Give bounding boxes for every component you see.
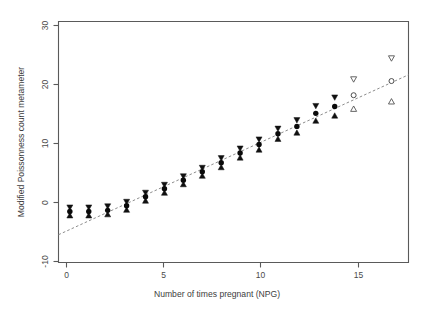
chart-svg: -10 0 10 20 30 0 5 10 15 Number of times… <box>0 0 434 314</box>
data-point-marker <box>105 208 110 213</box>
data-point-marker <box>237 150 242 155</box>
y-tick-label-10: 10 <box>40 139 50 149</box>
data-point-marker <box>200 169 205 174</box>
data-point-marker <box>313 111 318 116</box>
data-point-marker <box>389 79 394 84</box>
data-point-marker <box>162 186 167 191</box>
data-point-marker <box>219 160 224 165</box>
data-point-marker <box>124 203 129 208</box>
x-tick-label-10: 10 <box>256 270 266 280</box>
x-tick-label-15: 15 <box>354 270 364 280</box>
y-tick-label-0: 0 <box>40 200 50 205</box>
y-tick-label-20: 20 <box>40 80 50 90</box>
data-point-marker <box>67 209 72 214</box>
y-axis-title: Modified Poissonness count metameter <box>16 67 26 218</box>
y-tick-label--10: -10 <box>40 255 50 268</box>
data-point-marker <box>181 178 186 183</box>
data-point-marker <box>86 209 91 214</box>
data-point-marker <box>256 142 261 147</box>
data-point-marker <box>351 93 356 98</box>
x-tick-label-0: 0 <box>64 270 69 280</box>
data-point-marker <box>275 131 280 136</box>
y-tick-label-30: 30 <box>40 21 50 31</box>
data-point-marker <box>143 194 148 199</box>
x-tick-label-5: 5 <box>161 270 166 280</box>
data-point-marker <box>294 124 299 129</box>
x-axis-title: Number of times pregnant (NPG) <box>154 289 280 299</box>
chart-background <box>0 0 434 314</box>
data-point-marker <box>332 104 337 109</box>
poissonness-plot-figure: -10 0 10 20 30 0 5 10 15 Number of times… <box>0 0 434 314</box>
